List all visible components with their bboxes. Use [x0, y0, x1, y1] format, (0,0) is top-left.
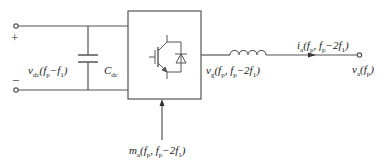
- grid-terminal: [357, 53, 361, 57]
- plus-sign: +: [11, 31, 18, 44]
- minus-sign: −: [12, 74, 19, 87]
- capacitor-label: Cdc: [104, 65, 118, 79]
- dc-capacitor-icon: [78, 26, 98, 90]
- converter-voltage-label: vg(fp, fp−2f1): [206, 65, 260, 79]
- grid-voltage-label: va(fp): [352, 64, 374, 78]
- converter-block: [128, 11, 201, 99]
- dc-voltage-label: vdc(fp−f1): [28, 65, 67, 79]
- circuit-diagram: [0, 0, 387, 161]
- modulation-arrow-icon: [160, 99, 165, 106]
- dc-minus-terminal: [14, 88, 18, 92]
- dc-plus-terminal: [14, 24, 18, 28]
- igbt-diode-icon: [149, 35, 187, 79]
- current-label: ia(fp, fp−2f1): [297, 40, 349, 54]
- modulation-label: ma(fp, fp−2f1): [129, 145, 186, 159]
- filter-inductor-icon: [230, 51, 266, 56]
